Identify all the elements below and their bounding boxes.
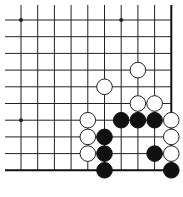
white-stone[interactable] bbox=[130, 96, 146, 112]
go-board[interactable] bbox=[0, 0, 183, 197]
star-point bbox=[19, 18, 23, 22]
black-stone[interactable] bbox=[130, 112, 146, 128]
white-stone[interactable] bbox=[164, 112, 180, 128]
white-stone[interactable] bbox=[80, 112, 96, 128]
black-stone[interactable] bbox=[97, 129, 113, 145]
white-stone[interactable] bbox=[97, 79, 113, 95]
white-stone[interactable] bbox=[130, 62, 146, 78]
black-stone[interactable] bbox=[113, 112, 129, 128]
white-stone[interactable] bbox=[80, 146, 96, 162]
star-point bbox=[119, 18, 123, 22]
black-stone[interactable] bbox=[97, 146, 113, 162]
black-stone[interactable] bbox=[147, 112, 163, 128]
black-stone[interactable] bbox=[97, 163, 113, 179]
white-stone[interactable] bbox=[147, 96, 163, 112]
white-stone[interactable] bbox=[164, 146, 180, 162]
white-stone[interactable] bbox=[164, 129, 180, 145]
star-point bbox=[19, 118, 23, 122]
black-stone[interactable] bbox=[164, 163, 180, 179]
black-stone[interactable] bbox=[147, 146, 163, 162]
white-stone[interactable] bbox=[80, 129, 96, 145]
